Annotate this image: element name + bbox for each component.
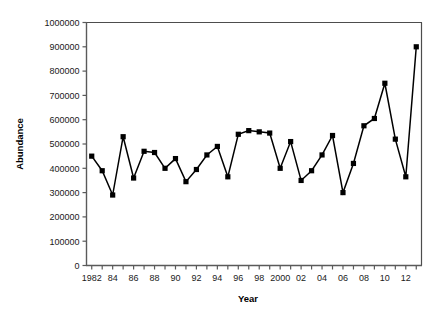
data-point-marker — [215, 144, 220, 149]
x-tick-label: 84 — [108, 273, 118, 283]
data-point-marker — [372, 116, 377, 121]
data-point-marker — [162, 166, 167, 171]
abundance-time-series-chart: 0100000200000300000400000500000600000700… — [0, 0, 440, 312]
y-tick-label: 200000 — [49, 212, 79, 222]
y-tick-label: 100000 — [49, 237, 79, 247]
x-tick-label: 04 — [317, 273, 327, 283]
x-tick-label: 92 — [191, 273, 201, 283]
data-point-marker — [267, 130, 272, 135]
data-point-marker — [382, 81, 387, 86]
data-point-marker — [340, 190, 345, 195]
data-point-marker — [278, 166, 283, 171]
data-point-marker — [299, 178, 304, 183]
data-point-marker — [110, 192, 115, 197]
x-tick-label: 90 — [170, 273, 180, 283]
data-point-marker — [236, 132, 241, 137]
data-point-marker — [183, 179, 188, 184]
data-point-marker — [319, 152, 324, 157]
y-axis-tick-labels: 0100000200000300000400000500000600000700… — [44, 18, 79, 271]
x-tick-label: 2000 — [270, 273, 290, 283]
data-point-marker — [89, 154, 94, 159]
y-tick-label: 600000 — [49, 115, 79, 125]
x-tick-label: 06 — [338, 273, 348, 283]
data-point-marker — [204, 152, 209, 157]
x-axis-title: Year — [238, 293, 258, 304]
x-axis-tick-labels: 198284868890929496982000020406081012 — [82, 273, 411, 283]
data-series-line — [92, 47, 417, 195]
data-point-marker — [330, 133, 335, 138]
data-point-marker — [393, 137, 398, 142]
data-point-marker — [403, 174, 408, 179]
x-tick-label: 02 — [296, 273, 306, 283]
x-tick-label: 12 — [401, 273, 411, 283]
y-tick-label: 900000 — [49, 42, 79, 52]
x-tick-label: 10 — [380, 273, 390, 283]
data-point-marker — [246, 128, 251, 133]
chart-plot-area: 0100000200000300000400000500000600000700… — [0, 0, 440, 312]
data-point-marker — [121, 134, 126, 139]
y-tick-label: 700000 — [49, 91, 79, 101]
x-tick-label: 1982 — [82, 273, 102, 283]
data-point-marker — [131, 175, 136, 180]
y-tick-label: 400000 — [49, 164, 79, 174]
data-point-marker — [141, 149, 146, 154]
x-tick-label: 86 — [129, 273, 139, 283]
data-series-markers — [89, 44, 419, 197]
y-tick-label: 0 — [74, 261, 79, 271]
data-point-marker — [173, 156, 178, 161]
y-tick-label: 1000000 — [44, 18, 79, 28]
data-point-marker — [100, 168, 105, 173]
y-tick-label: 500000 — [49, 139, 79, 149]
data-point-marker — [414, 44, 419, 49]
y-tick-label: 800000 — [49, 66, 79, 76]
y-axis-title: Abundance — [14, 118, 25, 170]
x-tick-label: 94 — [212, 273, 222, 283]
data-point-marker — [225, 174, 230, 179]
data-point-marker — [152, 150, 157, 155]
x-tick-label: 98 — [254, 273, 264, 283]
data-point-marker — [288, 139, 293, 144]
data-point-marker — [194, 167, 199, 172]
x-tick-label: 88 — [150, 273, 160, 283]
data-point-marker — [309, 168, 314, 173]
data-point-marker — [361, 123, 366, 128]
data-point-marker — [351, 161, 356, 166]
x-tick-label: 08 — [359, 273, 369, 283]
y-tick-label: 300000 — [49, 188, 79, 198]
data-point-marker — [257, 129, 262, 134]
x-tick-label: 96 — [233, 273, 243, 283]
